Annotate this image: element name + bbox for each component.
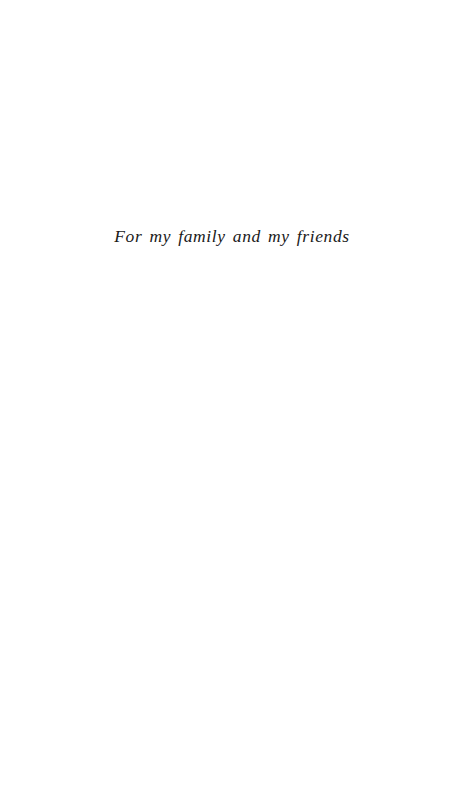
book-page: For my family and my friends [0, 0, 475, 811]
dedication-text: For my family and my friends [0, 224, 475, 248]
